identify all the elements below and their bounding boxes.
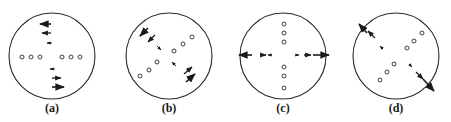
open-dot [282, 40, 286, 44]
open-dot [420, 31, 424, 35]
arrow-icon [172, 62, 176, 66]
open-dot [38, 55, 42, 59]
arrow-icon [423, 79, 434, 91]
arrow-icon [184, 67, 192, 74]
open-dot [282, 86, 286, 90]
open-dot [78, 55, 82, 59]
open-dot [29, 55, 33, 59]
open-dot [181, 42, 185, 46]
open-dot [60, 55, 64, 59]
open-dot [392, 62, 396, 66]
open-dot [172, 49, 176, 53]
panel-b [126, 13, 212, 99]
open-dot [378, 78, 382, 82]
arrow-icon [148, 35, 155, 42]
panel-d [353, 13, 439, 99]
open-dot [282, 74, 286, 78]
panel-a [9, 13, 95, 99]
open-dot [282, 65, 286, 69]
arrow-icon [416, 72, 423, 79]
arrow-icon [380, 46, 383, 49]
open-dot [155, 60, 159, 64]
open-dot [412, 39, 416, 43]
open-dot [385, 70, 389, 74]
open-dot [20, 55, 24, 59]
open-dot [282, 31, 286, 35]
open-dot [190, 35, 194, 39]
arrow-icon [157, 46, 161, 50]
boundary-circle [126, 13, 212, 99]
panel-label: (c) [276, 101, 289, 116]
open-dot [405, 46, 409, 50]
displacement-diagram [0, 0, 451, 122]
panel-label: (a) [45, 101, 59, 116]
open-dot [282, 22, 286, 26]
panel-label: (b) [162, 101, 177, 116]
boundary-circle [353, 13, 439, 99]
arrow-icon [368, 31, 375, 38]
open-dot [138, 74, 142, 78]
arrow-icon [140, 28, 148, 36]
arrow-icon [409, 64, 412, 67]
panel-c [239, 13, 329, 99]
panel-label: (d) [389, 101, 404, 116]
open-dot [69, 55, 73, 59]
open-dot [147, 68, 151, 72]
arrow-icon [186, 74, 195, 82]
